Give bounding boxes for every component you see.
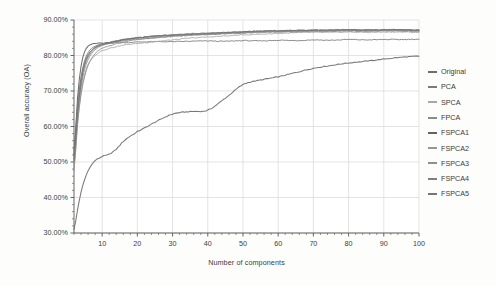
legend-item-original[interactable]: Original — [428, 64, 494, 79]
x-tick-label: 100 — [404, 239, 434, 248]
legend-item-label: FSPCA1 — [441, 129, 469, 136]
legend-item-label: PCA — [441, 83, 456, 90]
y-tick-label: 30.00% — [22, 228, 68, 237]
legend-item-fspca2[interactable]: FSPCA2 — [428, 140, 494, 155]
legend-item-label: SPCA — [441, 99, 461, 106]
chart-legend: OriginalPCASPCAFPCAFSPCA1FSPCA2FSPCA3FSP… — [428, 64, 494, 202]
y-tick-label: 40.00% — [22, 193, 68, 202]
legend-item-label: FSPCA5 — [441, 190, 469, 197]
y-tick-label: 80.00% — [22, 51, 68, 60]
x-tick-label: 10 — [87, 239, 117, 248]
legend-swatch-icon — [428, 193, 437, 195]
legend-swatch-icon — [428, 178, 437, 180]
y-tick-label: 50.00% — [22, 157, 68, 166]
legend-item-fpca[interactable]: FPCA — [428, 110, 494, 125]
legend-item-label: FSPCA4 — [441, 175, 469, 182]
legend-item-fspca3[interactable]: FSPCA3 — [428, 156, 494, 171]
legend-item-fspca4[interactable]: FSPCA4 — [428, 171, 494, 186]
legend-swatch-icon — [428, 132, 437, 134]
y-tick-label: 90.00% — [22, 15, 68, 24]
x-tick-label: 60 — [263, 239, 293, 248]
legend-item-spca[interactable]: SPCA — [428, 95, 494, 110]
y-tick-label: 70.00% — [22, 86, 68, 95]
legend-item-label: FPCA — [441, 114, 460, 121]
y-tick-label: 60.00% — [22, 122, 68, 131]
x-tick-label: 70 — [298, 239, 328, 248]
x-tick-label: 80 — [334, 239, 364, 248]
legend-swatch-icon — [428, 71, 437, 73]
x-tick-label: 20 — [122, 239, 152, 248]
legend-swatch-icon — [428, 101, 437, 103]
legend-swatch-icon — [428, 86, 437, 88]
x-tick-label: 30 — [158, 239, 188, 248]
chart-figure: Overall accuracy (OA) Number of componen… — [0, 0, 496, 285]
legend-item-label: Original — [441, 68, 466, 75]
legend-item-pca[interactable]: PCA — [428, 79, 494, 94]
plot-area-container: Overall accuracy (OA) Number of componen… — [0, 0, 496, 285]
legend-item-label: FSPCA3 — [441, 160, 469, 167]
legend-swatch-icon — [428, 147, 437, 149]
x-tick-label: 40 — [193, 239, 223, 248]
legend-item-fspca1[interactable]: FSPCA1 — [428, 125, 494, 140]
legend-swatch-icon — [428, 162, 437, 164]
legend-item-fspca5[interactable]: FSPCA5 — [428, 186, 494, 201]
legend-item-label: FSPCA2 — [441, 145, 469, 152]
x-axis-title: Number of components — [74, 258, 419, 267]
x-tick-label: 90 — [369, 239, 399, 248]
legend-swatch-icon — [428, 117, 437, 119]
x-tick-label: 50 — [228, 239, 258, 248]
